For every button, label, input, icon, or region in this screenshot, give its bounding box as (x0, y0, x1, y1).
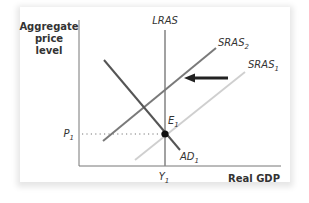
e1-subscript: 1 (174, 121, 178, 129)
ad1-label-text: AD (179, 151, 195, 162)
y-axis-label-line-2: price (35, 33, 63, 44)
left-arrow-icon (184, 74, 228, 83)
y-axis-label-line-1: Aggregate (19, 21, 78, 32)
sras2-label: SRAS2 (218, 37, 249, 51)
ad1-curve (104, 60, 180, 150)
lras-label: LRAS (152, 15, 178, 26)
e1-label: E1 (168, 115, 179, 129)
p1-label: P1 (64, 128, 75, 142)
equilibrium-point (161, 130, 168, 137)
sras1-subscript: 1 (274, 65, 278, 73)
x-axis-label: Real GDP (228, 173, 280, 184)
y-axis-label-line-3: level (36, 45, 63, 56)
ad1-subscript: 1 (195, 157, 199, 165)
ad-as-diagram: Aggregate price level Real GDP LRAS SRAS… (0, 0, 309, 203)
y1-subscript: 1 (165, 177, 169, 185)
sras2-subscript: 2 (244, 43, 249, 51)
sras1-label: SRAS1 (248, 59, 279, 73)
ad1-label: AD1 (179, 151, 199, 165)
sras2-label-text: SRAS (218, 37, 245, 48)
y1-label: Y1 (159, 171, 170, 185)
sras1-label-text: SRAS (248, 59, 275, 70)
p1-subscript: 1 (70, 134, 74, 142)
